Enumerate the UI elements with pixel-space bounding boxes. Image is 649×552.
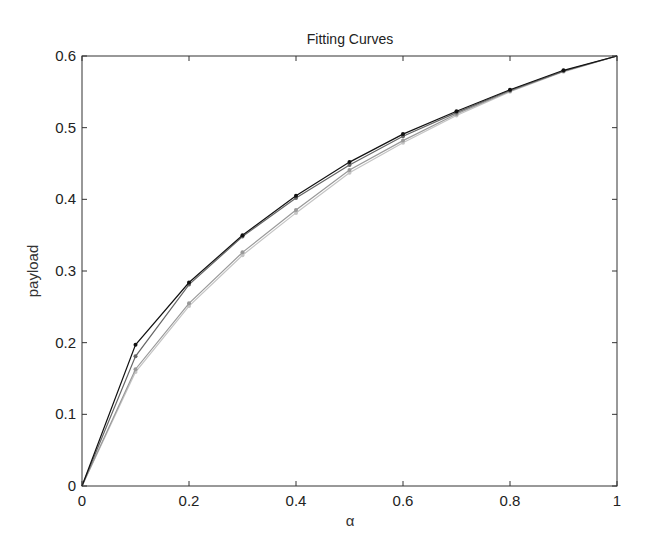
series-curve-3 xyxy=(82,56,617,486)
data-point-marker xyxy=(401,139,405,143)
plot-frame xyxy=(82,56,617,486)
data-point-marker xyxy=(134,354,138,358)
y-tick-label: 0.2 xyxy=(55,334,76,351)
x-tick-label: 0 xyxy=(78,492,86,509)
series-curve-4 xyxy=(82,56,617,486)
chart-title: Fitting Curves xyxy=(307,31,393,47)
data-point-marker xyxy=(348,160,352,164)
data-point-marker xyxy=(455,109,459,113)
data-point-marker xyxy=(134,367,138,371)
data-point-marker xyxy=(294,208,298,212)
data-point-marker xyxy=(241,233,245,237)
data-point-marker xyxy=(562,68,566,72)
y-tick-label: 0.5 xyxy=(55,119,76,136)
y-tick-label: 0.6 xyxy=(55,47,76,64)
data-point-marker xyxy=(294,194,298,198)
series-curve-1 xyxy=(82,56,617,486)
data-point-marker xyxy=(134,343,138,347)
y-tick-label: 0.1 xyxy=(55,405,76,422)
series-layer xyxy=(82,56,617,486)
y-tick-label: 0 xyxy=(68,477,76,494)
x-tick-label: 0.8 xyxy=(500,492,521,509)
x-tick-label: 0.2 xyxy=(179,492,200,509)
y-axis-label: payload xyxy=(24,245,41,298)
fitting-curves-chart: Fitting Curves 00.20.40.60.8100.10.20.30… xyxy=(0,0,649,552)
x-tick-label: 0.6 xyxy=(393,492,414,509)
data-point-marker xyxy=(241,250,245,254)
data-point-marker xyxy=(348,168,352,172)
series-curve-2 xyxy=(82,56,617,486)
y-tick-label: 0.4 xyxy=(55,190,76,207)
x-tick-label: 0.4 xyxy=(286,492,307,509)
y-tick-label: 0.3 xyxy=(55,262,76,279)
data-point-marker xyxy=(187,301,191,305)
data-point-marker xyxy=(187,280,191,284)
data-point-marker xyxy=(401,132,405,136)
data-point-marker xyxy=(508,88,512,92)
axis-ticks: 00.20.40.60.8100.10.20.30.40.50.6 xyxy=(55,47,621,509)
x-tick-label: 1 xyxy=(613,492,621,509)
x-axis-label: α xyxy=(346,512,355,529)
